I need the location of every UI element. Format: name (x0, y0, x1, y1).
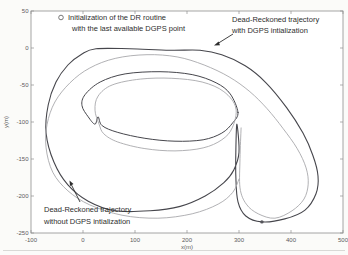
y-tick-label: -200 (16, 193, 29, 199)
y-tick-label: -50 (20, 82, 29, 88)
annotation-with-line2: with DGPS intialization (231, 26, 308, 35)
x-tick-label: -100 (25, 237, 38, 243)
legend-line1: Initialization of the DR routine (68, 13, 166, 22)
x-tick-label: 0 (81, 237, 85, 243)
y-tick-label: 0 (25, 45, 29, 51)
legend-line2: with the last available DGPS point (71, 24, 186, 33)
annotation-without-line1: Dead-Reckoned trajectory (44, 205, 131, 214)
annotation-with-line1: Dead-Reckoned trajectory (232, 15, 319, 24)
y-axis-label: y(m) (3, 116, 9, 128)
y-tick-label: -150 (16, 156, 29, 162)
scanned-trajectory-figure: -1000100200300400500500-50-100-150-200-2… (0, 0, 348, 255)
y-tick-label: -250 (16, 230, 29, 236)
x-tick-label: 200 (182, 237, 193, 243)
x-tick-label: 100 (130, 237, 141, 243)
x-tick-label: 400 (286, 237, 297, 243)
annotation-without-line2: without DGPS intialization (43, 217, 130, 226)
x-axis-label: x(m) (181, 244, 193, 250)
trajectory-plot: -1000100200300400500500-50-100-150-200-2… (0, 0, 348, 255)
y-tick-label: -100 (16, 119, 29, 125)
init-point-marker (260, 220, 263, 223)
x-tick-label: 500 (338, 237, 348, 243)
x-tick-label: 300 (234, 237, 245, 243)
y-tick-label: 50 (22, 8, 29, 14)
